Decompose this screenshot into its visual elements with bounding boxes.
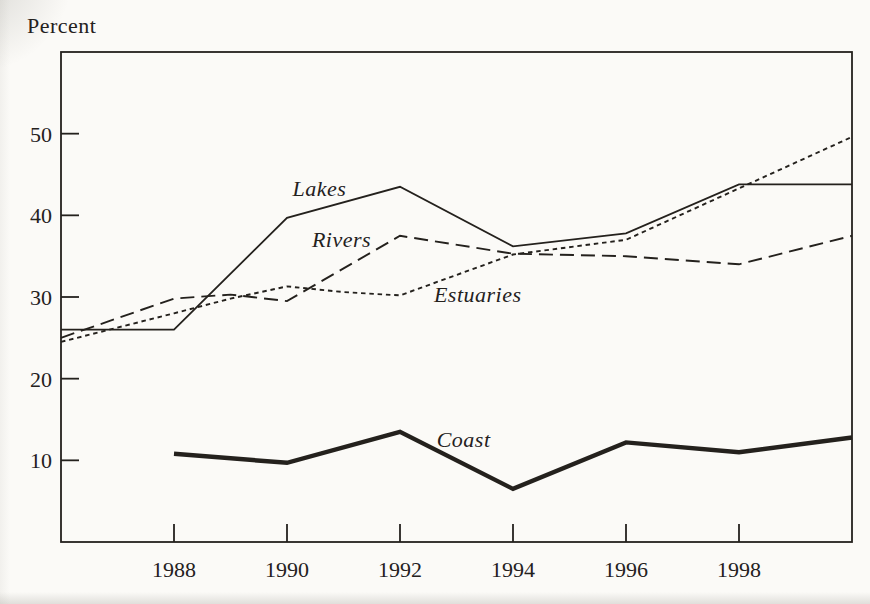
x-tick-label-1996: 1996 [604,557,648,582]
y-tick-label-20: 20 [30,367,52,392]
series-line-estuaries [61,137,852,342]
y-axis-title: Percent [27,13,96,38]
y-tick-label-50: 50 [30,122,52,147]
axis-tick-labels: 1988199019921994199619981020304050 [30,122,761,582]
y-tick-label-40: 40 [30,203,52,228]
series-line-lakes [61,184,852,329]
scanned-figure-page: Percent 19881990199219941996199810203040… [0,0,870,604]
percent-line-chart: Percent 19881990199219941996199810203040… [0,0,870,604]
series-label-rivers: Rivers [311,227,371,252]
y-tick-label-10: 10 [30,448,52,473]
y-tick-label-30: 30 [30,285,52,310]
x-tick-label-1992: 1992 [378,557,422,582]
series-label-coast: Coast [437,427,491,452]
series-line-coast [174,432,852,489]
x-tick-label-1998: 1998 [717,557,761,582]
x-tick-label-1988: 1988 [152,557,196,582]
axis-ticks [61,134,739,542]
series-label-estuaries: Estuaries [433,282,522,307]
x-tick-label-1994: 1994 [491,557,535,582]
series-label-lakes: Lakes [292,176,347,201]
series-labels: LakesRiversEstuariesCoast [292,176,522,453]
x-tick-label-1990: 1990 [265,557,309,582]
